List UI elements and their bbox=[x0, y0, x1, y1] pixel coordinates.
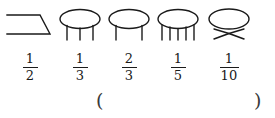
fraction-row: 1 2 1 3 2 3 1 5 1 10 bbox=[0, 49, 275, 85]
figure-table-5-legs bbox=[153, 4, 203, 48]
figure-table-curved-legs bbox=[204, 4, 254, 48]
figure-table-3-legs bbox=[55, 4, 105, 48]
fraction-1-3: 1 3 bbox=[55, 49, 105, 85]
fraction-numerator: 2 bbox=[125, 52, 133, 66]
answer-close-paren: ) bbox=[254, 88, 261, 112]
fraction-1-2: 1 2 bbox=[5, 49, 55, 85]
figure-table-2-legs bbox=[104, 4, 154, 48]
answer-blank[interactable]: ( ) bbox=[0, 86, 275, 118]
fraction-1-10: 1 10 bbox=[204, 49, 254, 85]
answer-open-paren: ( bbox=[96, 88, 103, 112]
fraction-1-5: 1 5 bbox=[153, 49, 203, 85]
worksheet-figure: 1 2 1 3 2 3 1 5 1 10 ( ) bbox=[0, 0, 275, 118]
fraction-numerator: 1 bbox=[76, 52, 84, 66]
fraction-denominator: 10 bbox=[221, 69, 238, 83]
fraction-denominator: 5 bbox=[174, 69, 182, 83]
fraction-denominator: 2 bbox=[26, 69, 34, 83]
figure-open-parallelogram bbox=[5, 4, 55, 48]
figure-row bbox=[0, 0, 275, 48]
fraction-numerator: 1 bbox=[26, 52, 34, 66]
fraction-denominator: 3 bbox=[76, 69, 84, 83]
table-top-ellipse bbox=[60, 10, 100, 29]
fraction-2-3: 2 3 bbox=[104, 49, 154, 85]
fraction-denominator: 3 bbox=[125, 69, 133, 83]
table-top-ellipse bbox=[158, 10, 198, 29]
table-top-ellipse bbox=[109, 10, 149, 29]
open-parallelogram-path bbox=[7, 15, 50, 34]
fraction-numerator: 1 bbox=[225, 52, 233, 66]
table-top-ellipse bbox=[209, 9, 249, 29]
fraction-numerator: 1 bbox=[174, 52, 182, 66]
